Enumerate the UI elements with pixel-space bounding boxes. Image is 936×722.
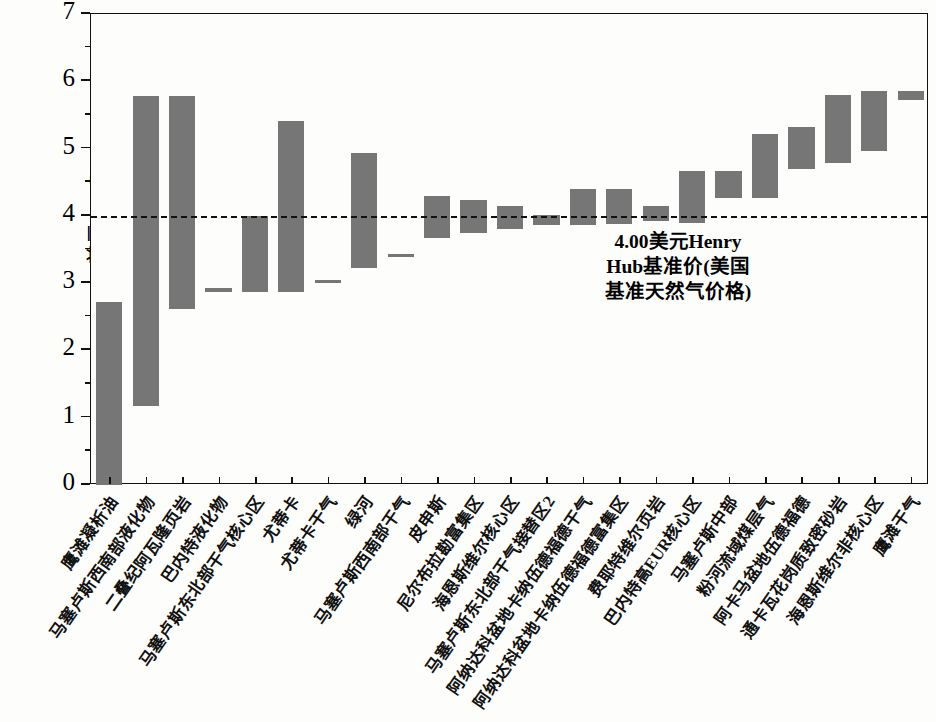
x-tick-mark	[291, 477, 293, 484]
x-tick-mark	[182, 477, 184, 484]
x-tick-mark	[765, 477, 767, 484]
y-tick-mark	[81, 12, 90, 14]
x-tick-mark	[619, 477, 621, 484]
x-tick-mark	[109, 477, 111, 484]
bar	[351, 153, 377, 268]
benchmark-annotation-line-2: Hub基准价(美国	[553, 254, 803, 279]
x-tick-mark	[801, 477, 803, 484]
y-tick-label: 7	[63, 0, 76, 25]
y-tick-mark	[81, 348, 90, 350]
x-tick-mark	[583, 477, 585, 484]
x-tick-mark	[401, 477, 403, 484]
x-tick-mark	[255, 477, 257, 484]
bar	[278, 121, 304, 292]
bar	[570, 189, 596, 225]
bar	[315, 280, 341, 283]
x-tick-mark	[510, 477, 512, 484]
bar	[497, 206, 523, 229]
x-tick-mark	[656, 477, 658, 484]
x-tick-mark	[328, 477, 330, 484]
bar	[861, 91, 887, 151]
x-tick-mark	[911, 477, 913, 484]
benchmark-annotation: 4.00美元Henry Hub基准价(美国 基准天然气价格)	[553, 229, 803, 304]
x-tick-mark	[546, 477, 548, 484]
x-tick-mark	[364, 477, 366, 484]
chart-root: 美元/mmBtu 01234567 4.00美元Henry Hub基准价(美国 …	[0, 0, 936, 722]
bar	[898, 91, 924, 100]
plot-area: 4.00美元Henry Hub基准价(美国 基准天然气价格)	[90, 13, 928, 484]
y-tick-mark	[81, 416, 90, 418]
x-axis-labels: 鹰滩凝析油马塞卢斯西南部液化物二叠纪阿瓦隆页岩巴内特液化物马塞卢斯东北部干气核心…	[0, 484, 936, 722]
y-tick-mark	[81, 281, 90, 283]
bar	[96, 302, 122, 485]
bar	[242, 216, 268, 292]
y-tick-label: 2	[63, 333, 76, 361]
y-tick-label: 3	[63, 266, 76, 294]
benchmark-annotation-line-3: 基准天然气价格)	[553, 279, 803, 304]
y-tick-label: 4	[63, 199, 76, 227]
bar	[205, 288, 231, 292]
y-tick-mark	[81, 147, 90, 149]
x-tick-mark	[874, 477, 876, 484]
bar	[788, 127, 814, 169]
x-tick-mark	[219, 477, 221, 484]
y-tick-label: 1	[63, 401, 76, 429]
bar	[752, 134, 778, 198]
bar	[643, 206, 669, 221]
x-tick-mark	[474, 477, 476, 484]
bar	[825, 95, 851, 163]
y-tick-label: 6	[63, 64, 76, 92]
benchmark-annotation-line-1: 4.00美元Henry	[553, 229, 803, 254]
bar	[679, 171, 705, 223]
x-tick-mark	[437, 477, 439, 484]
bar	[388, 254, 414, 257]
x-tick-mark	[692, 477, 694, 484]
y-tick-mark	[81, 79, 90, 81]
x-tick-mark	[838, 477, 840, 484]
y-tick-label: 5	[63, 132, 76, 160]
bar	[606, 189, 632, 224]
x-tick-mark	[729, 477, 731, 484]
bar	[169, 96, 195, 309]
x-tick-mark	[146, 477, 148, 484]
bar	[715, 171, 741, 199]
benchmark-reference-line	[91, 216, 927, 218]
bar	[133, 96, 159, 406]
y-tick-mark	[81, 214, 90, 216]
